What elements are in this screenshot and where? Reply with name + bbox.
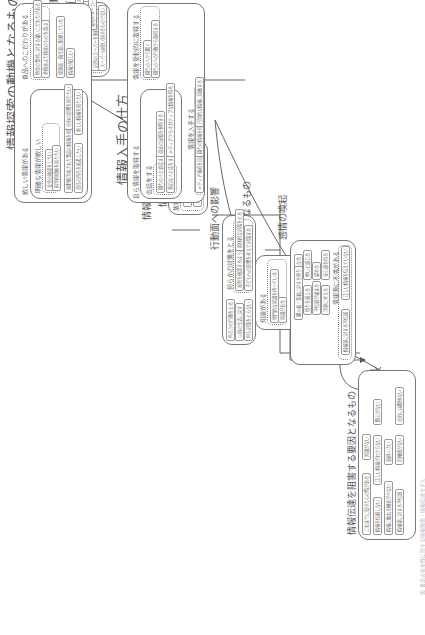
- inhibit-item: 知識がない: [362, 434, 371, 460]
- inhibit-item: 情報源に対する不信感: [395, 489, 404, 535]
- inhibit-item: 情報を信頼しない: [373, 497, 382, 535]
- inhibit-item: 情報に触れる機会が少ない: [384, 481, 393, 535]
- inhibit-item: 関心がない: [373, 399, 382, 425]
- promote-item: 信頼できる情報源がある: [302, 275, 311, 325]
- diagram-canvas: 日々の食品購買行動 特定のスーパーのみに限定した利用はしない 特定のスーパーでな…: [0, 0, 425, 635]
- knowledge-label: 知識がある: [258, 293, 267, 323]
- clear-label: 明確な情報が欲しい: [33, 139, 42, 193]
- behavior-dotted-item: 具体的な対策をとる: [235, 209, 244, 251]
- want-item: 新しい情報を知りたい: [74, 89, 83, 135]
- inhibit-title: 情報伝達を阻害する要因となるもの: [345, 391, 358, 535]
- inhibit-item: 危機感がない: [395, 435, 404, 465]
- inhibit-item: 正しい情報がわからない: [373, 435, 382, 485]
- want-item: 自分の影響を知りたい: [64, 84, 73, 130]
- inhibit-item: 面倒くさい: [384, 439, 393, 465]
- behavior-dotted-item: 子どもへの影響を考えて対策する: [244, 225, 253, 291]
- talk-item: 周りの人と会話する: [156, 151, 165, 193]
- promote-item: 人から得た情報を信頼する: [292, 271, 301, 325]
- figure-caption: 図 食品の安全性に関する情報探索・情報伝達モデル: [418, 478, 425, 595]
- food-label: 食品へのこだわりがある: [20, 14, 29, 80]
- daily-dotted-item: スーパーは使い分けるものでない: [98, 5, 107, 71]
- knowledge-item: 知識がある: [278, 297, 287, 323]
- food-item: 情報が欲しい: [66, 48, 75, 78]
- behavior-item: 何も対策をとらない: [244, 299, 253, 341]
- get-item: 日常的な情報に接触する: [195, 77, 204, 127]
- passive-label: 情報を受動的に取得する: [131, 14, 140, 80]
- self-label: 自ら情報を取得する: [131, 145, 140, 199]
- passive-item: 周りの人の行動から取得する: [151, 20, 160, 78]
- want-item: 責任の所在を追及したい: [74, 143, 83, 193]
- want-label: 欲しい情報がある: [20, 147, 29, 195]
- self-item: 過去の記憶を参照する: [156, 111, 165, 157]
- behavior-item: 何らかの行動をとる: [226, 299, 235, 341]
- behavior-heading: 行動面への影響: [208, 187, 221, 250]
- inhibit-item: 自分には関係ない: [395, 387, 404, 425]
- behavior-item: 以前の生活に戻す: [235, 303, 244, 341]
- talk-label: 会話をする: [144, 165, 153, 195]
- food-item: 健康面・衛生面に配慮している: [56, 16, 65, 78]
- clear-item: 科学的根拠を知りたい: [52, 145, 61, 191]
- self-item: メディアからネガティブな情報を得る: [166, 83, 175, 157]
- inhibit-item: これまでに受けた心の傷がある: [362, 473, 371, 535]
- food-item: 外国産より国産のものを選ぶ: [41, 20, 50, 78]
- talk-item: 身近な人と話をする: [166, 151, 175, 193]
